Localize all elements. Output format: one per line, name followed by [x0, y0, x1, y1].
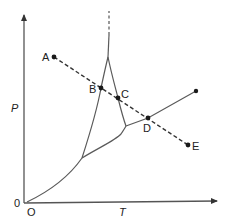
- label-B: B: [89, 83, 96, 95]
- vaporization-curve: [126, 91, 196, 126]
- point-A: [52, 55, 57, 60]
- x-axis: [24, 201, 217, 203]
- label-C: C: [121, 88, 129, 100]
- left-phase-boundary: [82, 57, 108, 158]
- phase-diagram: P T 0 O A B C D E: [0, 0, 229, 224]
- origin-y-label: 0: [14, 197, 20, 209]
- label-D: D: [143, 122, 151, 134]
- lower-boundary-curve: [27, 158, 82, 202]
- label-E: E: [192, 140, 199, 152]
- point-C: [116, 96, 121, 101]
- x-axis-label: T: [119, 206, 127, 218]
- upper-boundary-solid: [108, 35, 109, 57]
- origin-x-label: O: [27, 206, 36, 218]
- point-E: [186, 143, 191, 148]
- critical-point: [194, 89, 198, 93]
- path-A-to-E: [54, 57, 188, 145]
- y-axis-label: P: [11, 102, 19, 114]
- label-A: A: [42, 51, 50, 63]
- middle-phase-boundary: [82, 126, 126, 158]
- point-B: [99, 86, 104, 91]
- point-D: [146, 116, 151, 121]
